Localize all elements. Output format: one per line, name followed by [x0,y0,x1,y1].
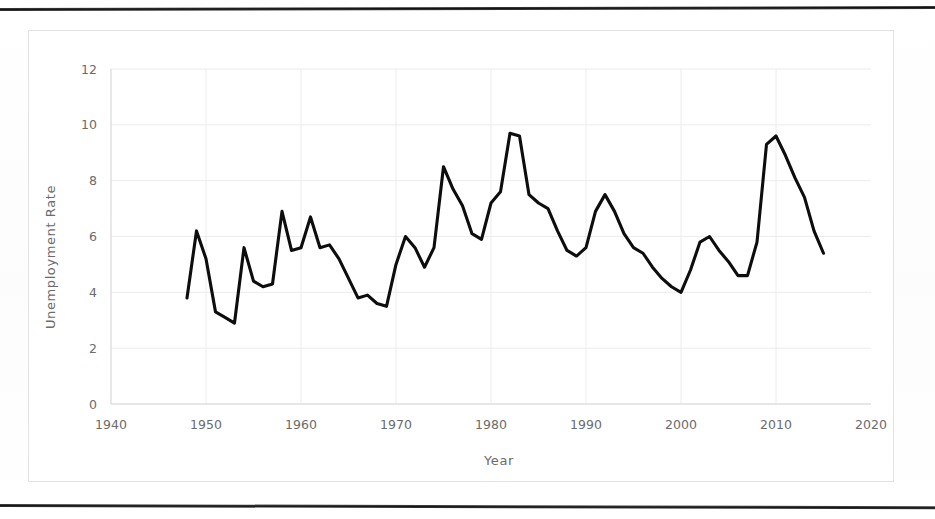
x-tick-label: 1970 [380,417,412,432]
x-tick-label: 2010 [760,417,792,432]
y-tick-label: 4 [89,285,97,300]
series-line-0 [187,133,824,323]
x-axis-group: 194019501960197019801990200020102020 [95,417,887,432]
x-tick-label: 2000 [665,417,697,432]
y-axis-title: Unemployment Rate [43,185,58,329]
x-tick-label: 1990 [570,417,602,432]
chart-card: 024681012 194019501960197019801990200020… [28,30,894,482]
series-group [187,133,824,323]
y-tick-label: 0 [89,397,97,412]
x-tick-label: 1960 [285,417,317,432]
x-tick-label: 1980 [475,417,507,432]
y-tick-label: 8 [89,173,97,188]
y-tick-label: 6 [89,229,97,244]
x-tick-label: 2020 [855,417,887,432]
scan-artifact-line-bottom [0,504,935,509]
x-axis-title: Year [483,453,514,468]
y-tick-label: 10 [81,117,97,132]
line-chart: 024681012 194019501960197019801990200020… [29,31,895,483]
y-tick-label: 2 [89,341,97,356]
y-axis-group: 024681012 [81,62,97,412]
plot-area: 024681012 194019501960197019801990200020… [29,31,895,483]
x-tick-label: 1940 [95,417,127,432]
scan-artifact-line-top [0,6,935,11]
x-tick-label: 1950 [190,417,222,432]
y-tick-label: 12 [81,62,97,77]
